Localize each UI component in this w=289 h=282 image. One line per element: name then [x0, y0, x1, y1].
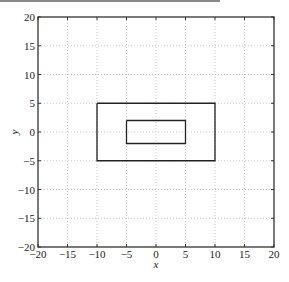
y-axis-label: y [8, 129, 20, 135]
y-tick-label: 10 [24, 69, 36, 81]
y-tick-label: −20 [18, 241, 36, 253]
x-tick-label: 10 [210, 248, 222, 260]
y-tick-label: 20 [24, 11, 36, 23]
y-tick-label: 0 [30, 126, 36, 138]
y-tick-label: 15 [24, 40, 36, 52]
x-tick-label: −10 [88, 248, 106, 260]
y-tick-label: −10 [18, 184, 36, 196]
grid-lines [38, 17, 274, 247]
y-tick-label: 5 [30, 97, 36, 109]
y-tick-label: −5 [23, 155, 35, 167]
x-axis-label: x [153, 258, 159, 270]
x-tick-label: 5 [183, 248, 189, 260]
y-tick-label: −15 [18, 212, 36, 224]
chart-canvas: −20−15−10−505101520−20−15−10−505101520 x… [0, 0, 289, 282]
x-tick-label: 15 [239, 248, 251, 260]
x-tick-label: −5 [121, 248, 133, 260]
x-tick-label: −15 [59, 248, 77, 260]
axis-ticks: −20−15−10−505101520−20−15−10−505101520 [18, 11, 280, 260]
x-tick-label: 20 [269, 248, 281, 260]
